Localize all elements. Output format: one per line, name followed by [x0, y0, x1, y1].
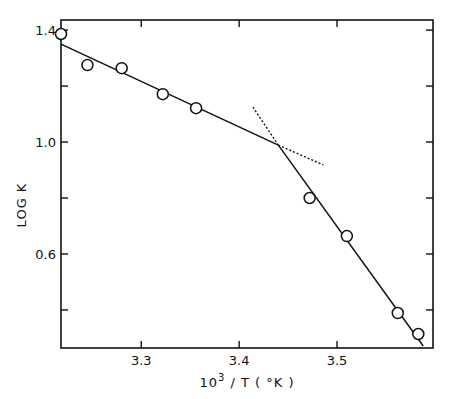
y-axis-label: LOG K: [14, 183, 29, 228]
data-point: [392, 308, 403, 319]
data-points: [56, 28, 424, 339]
data-point: [341, 231, 352, 242]
fit-lines: [61, 44, 423, 346]
data-point: [191, 103, 202, 114]
x-tick-label: 3.4: [229, 353, 250, 368]
y-tick-label: 1.4: [35, 23, 56, 38]
x-tick-label: 3.3: [131, 353, 152, 368]
data-point: [157, 89, 168, 100]
tick-labels: 3.33.43.50.61.01.4: [35, 23, 347, 368]
data-point: [56, 28, 67, 39]
x-tick-label: 3.5: [327, 353, 348, 368]
x-axis-label: 103 / T ( °K ): [199, 372, 294, 390]
data-point: [413, 329, 424, 340]
y-tick-label: 1.0: [35, 135, 56, 150]
data-point: [82, 60, 93, 71]
data-point: [304, 192, 315, 203]
fit-line: [61, 44, 278, 145]
arrhenius-plot: 3.33.43.50.61.01.4 LOG K 103 / T ( °K ): [0, 0, 452, 399]
y-tick-label: 0.6: [35, 247, 56, 262]
data-point: [116, 63, 127, 74]
